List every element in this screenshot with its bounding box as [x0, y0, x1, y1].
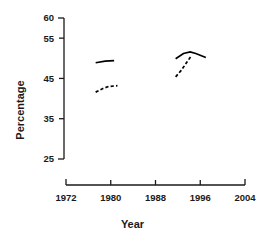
series-line [96, 86, 118, 92]
y-axis-title: Percentage [14, 60, 26, 160]
y-tick-label: 45 [43, 73, 54, 84]
x-tick-labels: 19721980198819962004 [55, 192, 256, 203]
y-tick-labels: 2535455560 [43, 12, 54, 164]
series-line [176, 56, 192, 77]
data-series-group [96, 52, 206, 92]
x-axis [66, 179, 245, 185]
chart-container: 2535455560 19721980198819962004 Percenta… [0, 0, 265, 244]
y-tick-label: 55 [43, 33, 54, 44]
y-axis [58, 18, 64, 159]
y-tick-label: 35 [43, 113, 54, 124]
x-tick-label: 1996 [190, 192, 211, 203]
y-tick-label: 25 [43, 153, 54, 164]
x-tick-label: 1980 [100, 192, 121, 203]
x-axis-title: Year [0, 218, 265, 230]
x-tick-label: 1972 [55, 192, 76, 203]
chart-plot-area: 2535455560 19721980198819962004 [0, 0, 265, 244]
y-tick-label: 60 [43, 12, 54, 23]
series-line [96, 61, 114, 63]
x-tick-label: 2004 [234, 192, 256, 203]
x-tick-label: 1988 [145, 192, 166, 203]
